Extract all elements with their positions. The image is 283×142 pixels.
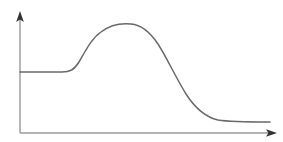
data-curve: [20, 24, 270, 122]
curve-plot: [0, 0, 283, 142]
figure-container: [0, 0, 283, 142]
